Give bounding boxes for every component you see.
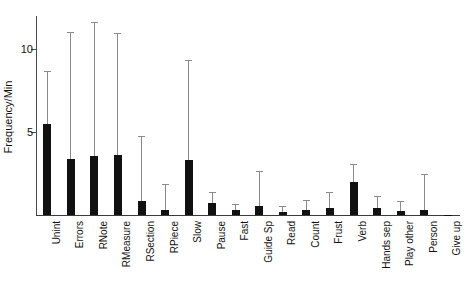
x-tick-label: Read (286, 221, 297, 245)
x-tick-label: Count (310, 221, 321, 248)
x-tick-label: Give up (451, 221, 462, 255)
plot-area: 510 (36, 16, 460, 216)
error-bar-cap (326, 192, 333, 193)
error-bar-cap (256, 171, 263, 172)
x-tick-label: Verb (357, 221, 368, 242)
x-tick-label: RMeasure (121, 221, 132, 267)
bar (185, 160, 193, 215)
bar (208, 203, 216, 215)
x-tick-label: Play other (404, 221, 415, 266)
error-bar-cap (162, 184, 169, 185)
error-bar-cap (303, 200, 310, 201)
bar (397, 211, 405, 215)
x-tick-label: Guide Sp (263, 221, 274, 263)
error-bar-cap (279, 206, 286, 207)
bar (420, 210, 428, 215)
error-bar-cap (421, 174, 428, 175)
bar (67, 159, 75, 215)
y-tick-label: 10 (21, 43, 33, 55)
bar (302, 210, 310, 215)
x-axis-line (36, 215, 460, 216)
x-tick-label: Fast (239, 221, 250, 240)
error-bar-cap (397, 201, 404, 202)
y-axis-line (36, 16, 37, 216)
error-bar-cap (209, 192, 216, 193)
bar (350, 182, 358, 215)
bar (138, 201, 146, 215)
bar (373, 208, 381, 215)
bar (279, 212, 287, 215)
bar-chart-figure: Frequency/Min 510 UnintErrorsRNoteRMeasu… (0, 0, 472, 286)
x-tick-label: Hands sep (381, 221, 392, 269)
x-tick-label: Pause (216, 221, 227, 249)
bar (326, 208, 334, 215)
x-tick-label: RSection (145, 221, 156, 262)
error-bar (424, 175, 425, 215)
error-bar-cap (44, 71, 51, 72)
x-tick-label: Slow (192, 221, 203, 243)
bar (161, 210, 169, 215)
error-bar-cap (185, 60, 192, 61)
x-tick-label: RNote (98, 221, 109, 249)
bar (232, 210, 240, 215)
error-bar-cap (350, 164, 357, 165)
error-bar-cap (138, 136, 145, 137)
y-axis-label: Frequency/Min (2, 62, 14, 172)
error-bar-cap (114, 33, 121, 34)
error-bar-cap (91, 22, 98, 23)
bar (90, 156, 98, 215)
x-tick-label: Unint (51, 221, 62, 244)
x-tick-label: RPiece (169, 221, 180, 253)
bar (43, 124, 51, 215)
error-bar-cap (232, 204, 239, 205)
x-tick-label: Frust (333, 221, 344, 244)
error-bar-cap (67, 32, 74, 33)
bar (114, 155, 122, 215)
bar (255, 206, 263, 215)
x-tick-label: Errors (74, 221, 85, 248)
x-tick-label: Person (428, 221, 439, 253)
error-bar-cap (374, 196, 381, 197)
y-tick-label: 5 (27, 126, 33, 138)
